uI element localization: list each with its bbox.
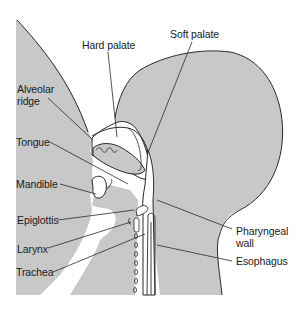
label-trachea: Trachea [16, 266, 53, 278]
mandible-shape [92, 176, 106, 198]
label-alveolar-ridge-line1: Alveolar [17, 83, 54, 95]
label-soft-palate: Soft palate [170, 28, 219, 40]
label-alveolar-ridge-line2: ridge [17, 95, 40, 107]
larynx-shape [134, 218, 139, 232]
label-pharyngeal-wall-line1: Pharyngeal [236, 225, 288, 237]
label-tongue: Tongue [16, 136, 50, 148]
label-larynx: Larynx [17, 243, 48, 255]
label-esophagus: Esophagus [236, 255, 288, 267]
label-epiglottis: Epiglottis [17, 214, 59, 226]
label-hard-palate: Hard palate [82, 39, 135, 51]
label-mandible: Mandible [16, 178, 58, 190]
label-pharyngeal-wall-line2: wall [236, 237, 254, 249]
